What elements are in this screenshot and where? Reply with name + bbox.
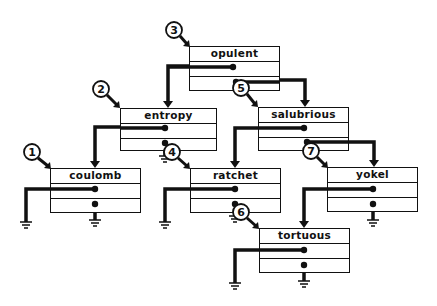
callout-layer: 1 2 3 4 5 6 7: [0, 0, 437, 306]
callout-3: 3: [166, 22, 182, 38]
callout-1: 1: [24, 144, 40, 160]
callout-6: 6: [233, 204, 249, 220]
svg-text:4: 4: [168, 146, 176, 159]
svg-text:6: 6: [237, 206, 245, 219]
svg-text:1: 1: [28, 146, 36, 159]
tree-diagram: coulomb entropy opulent ratchet salubrio…: [0, 0, 437, 306]
callout-4: 4: [164, 144, 180, 160]
svg-text:5: 5: [237, 82, 245, 95]
svg-text:3: 3: [170, 24, 178, 37]
callout-2: 2: [93, 81, 109, 97]
callout-7: 7: [303, 143, 319, 159]
svg-text:7: 7: [307, 145, 315, 158]
svg-text:2: 2: [97, 83, 105, 96]
callout-5: 5: [233, 80, 249, 96]
